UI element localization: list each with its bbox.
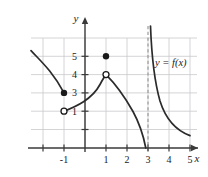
open-point-middle-branch-start xyxy=(61,108,67,114)
x-tick-label-4: 4 xyxy=(167,154,172,165)
graph-canvas: -1 1 2 3 4 5 1 3 4 5 y x y = f(x) xyxy=(0,0,208,177)
axes xyxy=(28,19,198,152)
x-tick-label-1: 1 xyxy=(104,154,109,165)
x-tick-label--1: -1 xyxy=(60,154,68,165)
closed-point-value-at-one xyxy=(103,53,109,59)
curve-branch-left xyxy=(31,51,64,93)
x-tick-label-3: 3 xyxy=(146,154,151,165)
y-tick-label-3: 3 xyxy=(72,87,77,98)
y-tick-label-4: 4 xyxy=(72,69,77,80)
y-tick-label-5: 5 xyxy=(72,51,77,62)
x-axis-label: x xyxy=(194,152,200,164)
x-tick-label-2: 2 xyxy=(125,154,130,165)
x-axis-arrow xyxy=(191,145,198,151)
y-axis-arrow xyxy=(82,17,88,24)
curve-label-y-equals-f-of-x: y = f(x) xyxy=(154,57,187,69)
x-tick-label-5: 5 xyxy=(188,154,193,165)
y-axis-label: y xyxy=(73,12,79,24)
closed-point-left-branch-end xyxy=(61,90,67,96)
curve-branch-right xyxy=(151,26,191,136)
y-tick-label-1: 1 xyxy=(72,106,77,117)
function-graph-figure: -1 1 2 3 4 5 1 3 4 5 y x y = f(x) xyxy=(0,0,208,177)
grid-lines xyxy=(31,38,197,148)
open-point-peak xyxy=(103,72,109,78)
